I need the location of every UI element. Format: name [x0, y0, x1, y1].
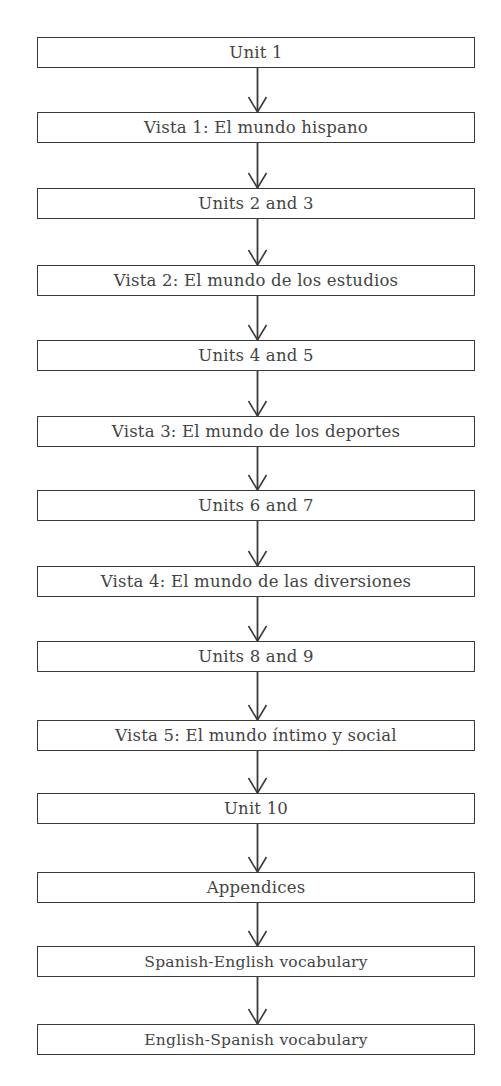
arrow-down-icon	[249, 903, 267, 946]
arrow-down-icon	[249, 447, 267, 490]
node-vista-3: Vista 3: El mundo de los deportes	[37, 416, 475, 447]
arrow-down-icon	[249, 751, 267, 793]
arrow-down-icon	[249, 824, 267, 872]
node-vista-5: Vista 5: El mundo íntimo y social	[37, 720, 475, 751]
arrow-down-icon	[249, 219, 267, 265]
node-appendices: Appendices	[37, 872, 475, 903]
node-unit-10: Unit 10	[37, 793, 475, 824]
node-vista-2: Vista 2: El mundo de los estudios	[37, 265, 475, 296]
node-units-2-3: Units 2 and 3	[37, 188, 475, 219]
arrow-down-icon	[249, 296, 267, 340]
arrow-layer	[0, 0, 501, 1086]
node-vista-4: Vista 4: El mundo de las diversiones	[37, 566, 475, 597]
node-unit-1: Unit 1	[37, 37, 475, 68]
node-units-4-5: Units 4 and 5	[37, 340, 475, 371]
node-units-6-7: Units 6 and 7	[37, 490, 475, 521]
node-english-spanish-vocabulary: English-Spanish vocabulary	[37, 1024, 475, 1055]
node-units-8-9: Units 8 and 9	[37, 641, 475, 672]
node-spanish-english-vocabulary: Spanish-English vocabulary	[37, 946, 475, 977]
arrow-down-icon	[249, 68, 267, 112]
node-vista-1: Vista 1: El mundo hispano	[37, 112, 475, 143]
arrow-down-icon	[249, 672, 267, 720]
arrow-down-icon	[249, 521, 267, 566]
arrow-down-icon	[249, 977, 267, 1024]
arrow-down-icon	[249, 371, 267, 416]
arrow-down-icon	[249, 597, 267, 641]
flowchart: Unit 1 Vista 1: El mundo hispano Units 2…	[0, 0, 501, 1086]
arrow-down-icon	[249, 143, 267, 188]
